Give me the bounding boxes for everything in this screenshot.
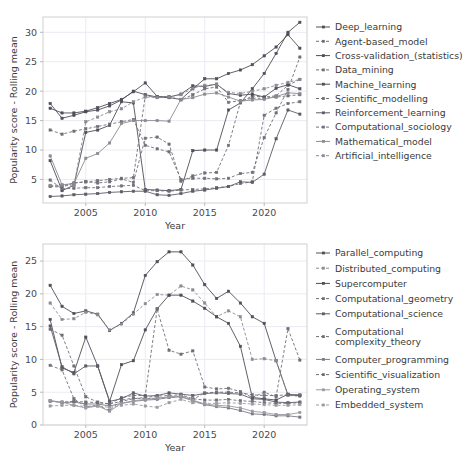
series-marker <box>49 102 51 104</box>
series-marker <box>85 131 87 133</box>
legend-label[interactable]: Computer_programming <box>335 354 449 365</box>
series-marker <box>108 191 110 193</box>
series-marker <box>251 181 253 183</box>
series-marker <box>192 394 194 396</box>
legend-label[interactable]: Artificial_intelligence <box>335 150 432 161</box>
series-marker <box>263 173 265 175</box>
legend-label[interactable]: Embedded_system <box>335 399 423 410</box>
legend-label[interactable]: Operating_system <box>335 384 420 395</box>
series-marker <box>192 264 194 266</box>
series-marker <box>132 400 134 402</box>
series-marker <box>227 101 229 103</box>
series-marker <box>215 178 217 180</box>
legend-label[interactable]: Mathematical_model <box>335 136 432 147</box>
legend-marker <box>322 252 325 255</box>
series-marker <box>215 149 217 151</box>
series-marker <box>287 394 289 396</box>
series-marker <box>156 293 158 295</box>
y-tick-label: 0 <box>31 419 37 430</box>
series-marker <box>156 406 158 408</box>
series-marker <box>132 394 134 396</box>
series-marker <box>73 114 75 116</box>
series-marker <box>144 144 146 146</box>
series-marker <box>299 113 301 115</box>
legend-marker <box>322 140 325 143</box>
series-marker <box>299 416 301 418</box>
chart-panel-bottom: 20052010201520200510152025YearPopularity… <box>0 236 474 471</box>
series-marker <box>204 402 206 404</box>
series-marker <box>204 284 206 286</box>
series-marker <box>287 95 289 97</box>
series-marker <box>204 93 206 95</box>
series-marker <box>97 314 99 316</box>
series-marker <box>49 302 51 304</box>
series-marker <box>73 130 75 132</box>
series-marker <box>73 185 75 187</box>
series-marker <box>180 192 182 194</box>
series-marker <box>168 96 170 98</box>
series-marker <box>275 52 277 54</box>
legend-label[interactable]: Computational_science <box>335 308 443 319</box>
legend-label-continuation[interactable]: complexity_theory <box>335 336 422 347</box>
series-marker <box>85 110 87 112</box>
series-marker <box>227 398 229 400</box>
legend-label[interactable]: Scientific_modelling <box>335 93 428 104</box>
series-marker <box>120 191 122 193</box>
series-marker <box>251 64 253 66</box>
series-marker <box>156 119 158 121</box>
series-marker <box>120 404 122 406</box>
series-marker <box>251 413 253 415</box>
series-marker <box>144 82 146 84</box>
series-marker <box>85 311 87 313</box>
legend-label[interactable]: Data_mining <box>335 64 394 75</box>
series-marker <box>239 69 241 71</box>
series-marker <box>49 107 51 109</box>
series-marker <box>204 149 206 151</box>
legend-label[interactable]: Computational_sociology <box>335 121 452 132</box>
series-marker <box>263 394 265 396</box>
series-marker <box>73 404 75 406</box>
legend-label[interactable]: Machine_learning <box>335 79 417 90</box>
series-marker <box>287 84 289 86</box>
legend-label[interactable]: Deep_learning <box>335 21 402 32</box>
series-marker <box>61 133 63 135</box>
series-marker <box>108 111 110 113</box>
legend-label[interactable]: Cross-validation_(statistics) <box>335 50 463 61</box>
legend-label[interactable]: Reinforcement_learning <box>335 107 446 118</box>
legend-marker <box>322 126 325 129</box>
legend-label[interactable]: Scientific_visualization <box>335 369 440 380</box>
series-marker <box>85 187 87 189</box>
series-marker <box>85 181 87 183</box>
series-marker <box>180 180 182 182</box>
x-tick-label: 2015 <box>193 429 217 440</box>
legend-label[interactable]: Agent-based_model <box>335 36 428 47</box>
series-marker <box>108 105 110 107</box>
legend-label[interactable]: Distributed_computing <box>335 263 441 274</box>
series-marker <box>168 151 170 153</box>
series-marker <box>144 96 146 98</box>
series-marker <box>192 300 194 302</box>
series-marker <box>204 172 206 174</box>
legend-marker <box>322 267 325 270</box>
series-marker <box>144 329 146 331</box>
legend-label[interactable]: Supercomputer <box>335 278 407 289</box>
series-marker <box>204 386 206 388</box>
series-marker <box>263 114 265 116</box>
series-marker <box>263 411 265 413</box>
series-marker <box>168 294 170 296</box>
series-marker <box>299 394 301 396</box>
series-marker <box>120 122 122 124</box>
legend-label[interactable]: Parallel_computing <box>335 247 423 258</box>
series-marker <box>156 194 158 196</box>
series-marker <box>156 148 158 150</box>
series-marker <box>49 364 51 366</box>
series-marker <box>49 195 51 197</box>
series-marker <box>97 405 99 407</box>
y-axis-title: Popularity score - Rolling mean <box>8 36 19 184</box>
x-tick-label: 2005 <box>74 207 98 218</box>
x-tick-label: 2020 <box>252 429 276 440</box>
series-marker <box>299 88 301 90</box>
series-marker <box>180 94 182 96</box>
series-marker <box>299 47 301 49</box>
legend-label[interactable]: Computational_geometry <box>335 293 454 304</box>
